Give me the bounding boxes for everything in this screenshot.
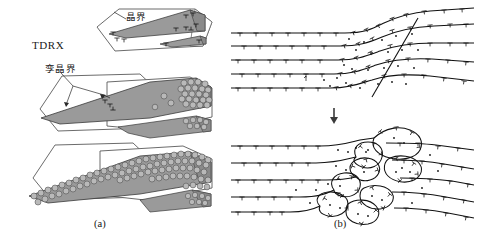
panel-b-tees-row1 xyxy=(237,9,464,37)
panel-b-tees-row4 xyxy=(239,58,468,78)
panel-b-stage-1 xyxy=(231,8,474,97)
panel-b-stage-2 xyxy=(231,127,474,227)
grain-boundary-label: 晶界 xyxy=(126,12,147,22)
tdrx-label: TDRX xyxy=(32,40,64,51)
figure-canvas xyxy=(0,0,479,252)
figure-root: TDRX 晶界 孪晶界 (a) (b) xyxy=(0,0,479,252)
transition-arrow xyxy=(330,108,338,124)
panel-b2-tees-left xyxy=(235,146,320,215)
panel-b-free-dislocations-2 xyxy=(295,137,439,217)
panel-b-group xyxy=(231,8,474,226)
subgrain-cell-7 xyxy=(317,192,348,217)
subgrain-cell-6 xyxy=(360,186,393,210)
burgers-vector-mark xyxy=(304,76,306,81)
twin-boundary-label: 孪晶界 xyxy=(45,64,76,74)
panel-a-label: (a) xyxy=(94,219,106,230)
panel-b-label: (b) xyxy=(334,219,346,230)
